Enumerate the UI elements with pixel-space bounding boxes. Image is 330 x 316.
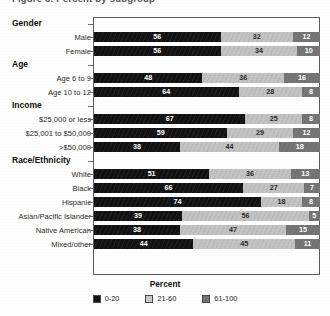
axis-tick — [88, 133, 93, 134]
axis-tick — [88, 65, 93, 66]
bar-segment: 32 — [221, 32, 293, 42]
stacked-bar: 444511 — [94, 239, 320, 249]
stacked-bar: 563212 — [94, 32, 320, 42]
bar-value-label: 51 — [148, 170, 156, 177]
legend-label: 61-100 — [214, 294, 237, 303]
bar-value-label: 47 — [229, 226, 237, 233]
legend-item[interactable]: 0-20 — [93, 294, 120, 303]
chart-rows: GenderMale563212Female563410AgeAge 6 to … — [0, 17, 330, 251]
legend-item[interactable]: 21-60 — [145, 294, 176, 303]
bar-segment: 39 — [94, 211, 182, 221]
stacked-bar: 483616 — [94, 73, 320, 83]
bar-row: White513613 — [0, 167, 330, 181]
bar-value-label: 27 — [270, 184, 278, 191]
stacked-bar: 384715 — [94, 225, 320, 235]
stacked-bar: 67258 — [94, 114, 320, 124]
group-label: Income — [12, 100, 42, 110]
bar-value-label: 64 — [162, 88, 170, 95]
group-label: Race/Ethnicity — [12, 155, 71, 165]
bar-segment: 5 — [309, 211, 320, 221]
bar-segment: 12 — [293, 32, 320, 42]
bar-value-label: 56 — [153, 47, 161, 54]
figure-title: Figure 3. Percent by subgroup — [12, 0, 155, 4]
stacked-bar: 513613 — [94, 169, 320, 179]
bar-segment: 29 — [227, 128, 293, 138]
bar-value-label: 38 — [133, 226, 141, 233]
category-label: Mixed/other — [51, 240, 91, 249]
bar-segment: 51 — [94, 169, 209, 179]
category-label: >$50,000 — [59, 143, 91, 152]
stacked-bar: 563410 — [94, 46, 320, 56]
bar-value-label: 59 — [157, 129, 165, 136]
bar-value-label: 8 — [309, 88, 313, 95]
category-label: Asian/Pacific Islander — [18, 212, 91, 221]
axis-tick — [88, 230, 93, 231]
bar-row: $25,001 to $50,000592912 — [0, 126, 330, 140]
bar-row: Mixed/other444511 — [0, 237, 330, 251]
legend-swatch-icon — [145, 295, 153, 303]
bar-segment: 56 — [182, 211, 309, 221]
category-label: $25,000 or less — [39, 115, 91, 124]
category-label: Age 6 to 9 — [56, 74, 91, 83]
x-axis-label: Percent — [0, 279, 330, 289]
legend-item[interactable]: 61-100 — [202, 294, 237, 303]
bar-row: Age 6 to 9483616 — [0, 71, 330, 85]
bar-value-label: 38 — [133, 143, 141, 150]
category-label: $25,001 to $50,000 — [26, 129, 91, 138]
bar-value-label: 5 — [312, 212, 316, 219]
bar-segment: 16 — [284, 73, 320, 83]
group-row: Race/Ethnicity — [0, 154, 330, 167]
bar-value-label: 7 — [310, 184, 314, 191]
bar-row: Female563410 — [0, 44, 330, 58]
axis-tick — [88, 188, 93, 189]
axis-tick — [88, 202, 93, 203]
stacked-bar: 66277 — [94, 183, 320, 193]
group-label: Age — [12, 59, 28, 69]
bar-value-label: 44 — [140, 240, 148, 247]
chart-legend: 0-2021-6061-100 — [0, 294, 330, 303]
bar-value-label: 45 — [240, 240, 248, 247]
category-label: Hispanic — [62, 198, 91, 207]
axis-tick — [88, 37, 93, 38]
bar-value-label: 10 — [305, 47, 313, 54]
bar-value-label: 74 — [174, 198, 182, 205]
axis-tick — [88, 24, 93, 25]
bar-segment: 44 — [94, 239, 193, 249]
category-label: Age 10 to 12 — [48, 88, 91, 97]
bar-segment: 38 — [94, 142, 180, 152]
bar-segment: 27 — [243, 183, 304, 193]
bar-value-label: 29 — [256, 129, 264, 136]
bar-value-label: 66 — [165, 184, 173, 191]
bar-row: Hispanic74188 — [0, 195, 330, 209]
bar-segment: 44 — [180, 142, 279, 152]
bar-value-label: 12 — [302, 33, 310, 40]
bar-segment: 18 — [261, 197, 302, 207]
axis-tick — [88, 174, 93, 175]
axis-tick — [88, 161, 93, 162]
category-label: Native American — [36, 226, 91, 235]
bar-segment: 34 — [221, 46, 298, 56]
axis-tick — [88, 119, 93, 120]
bar-value-label: 44 — [226, 143, 234, 150]
group-label: Gender — [12, 18, 42, 28]
axis-tick — [88, 216, 93, 217]
bar-segment: 7 — [304, 183, 320, 193]
bar-segment: 8 — [302, 197, 320, 207]
bar-segment: 25 — [245, 114, 302, 124]
axis-tick — [88, 92, 93, 93]
bar-row: Age 10 to 1264288 — [0, 85, 330, 99]
axis-tick — [88, 51, 93, 52]
bar-segment: 15 — [286, 225, 320, 235]
bar-segment: 38 — [94, 225, 180, 235]
bar-row: >$50,000384418 — [0, 140, 330, 154]
bar-segment: 8 — [302, 87, 320, 97]
stacked-bar: 592912 — [94, 128, 320, 138]
bar-row: Native American384715 — [0, 223, 330, 237]
bar-segment: 56 — [94, 32, 221, 42]
bar-value-label: 11 — [304, 240, 312, 247]
bar-value-label: 32 — [253, 33, 261, 40]
stacked-bar: 384418 — [94, 142, 320, 152]
bar-segment: 13 — [291, 169, 320, 179]
stacked-bar: 39565 — [94, 211, 320, 221]
group-row: Age — [0, 58, 330, 71]
